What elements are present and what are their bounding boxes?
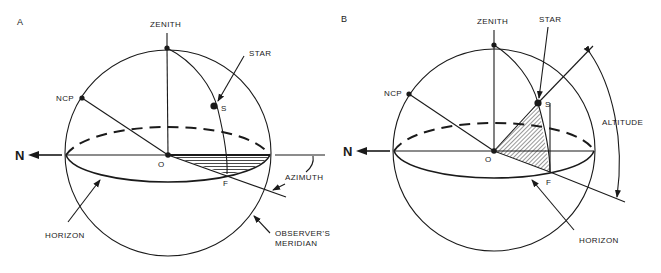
star-label: STAR <box>249 49 271 58</box>
zenith-label: ZENITH <box>477 17 508 26</box>
horizon-label: HORIZON <box>45 231 85 240</box>
azimuth-leader-bottom <box>273 184 285 190</box>
north-arrow-icon <box>28 151 39 159</box>
horizon-leader <box>532 180 574 230</box>
horizon-direction-line <box>550 172 625 202</box>
star-label: STAR <box>539 15 561 24</box>
foot-label: F <box>223 179 228 188</box>
star-leader <box>539 27 548 98</box>
star-leader <box>218 56 244 101</box>
north-label: N <box>343 144 352 159</box>
meridian-label-line2: MERIDIAN <box>275 239 317 248</box>
ncp-label: NCP <box>56 94 74 103</box>
origin-point <box>491 148 497 154</box>
meridian-label-line1: OBSERVER'S <box>275 229 330 238</box>
panel-b: B N ZENITH NCP ALTITUDE <box>341 14 643 251</box>
panel-b-label: B <box>341 14 347 24</box>
north-arrow-icon <box>356 147 367 155</box>
meridian-leader <box>254 216 270 233</box>
foot-label: F <box>546 178 551 187</box>
azimuth-hatch <box>168 155 270 174</box>
star-point <box>534 99 541 106</box>
altitude-label: ALTITUDE <box>602 118 643 127</box>
origin-point <box>165 152 171 158</box>
celestial-sphere-figure: A N ZENITH NCP S STAR <box>0 0 661 273</box>
panel-a-label: A <box>17 17 23 27</box>
north-label: N <box>15 148 24 163</box>
horizon-label: HORIZON <box>579 236 619 245</box>
origin-label: O <box>485 155 492 164</box>
zenith-vertical <box>167 48 168 155</box>
star-direction-line <box>538 46 593 103</box>
ncp-label: NCP <box>384 89 402 98</box>
star-point-label: S <box>221 104 227 113</box>
ncp-point <box>79 95 84 100</box>
ncp-point <box>406 91 411 96</box>
horizon-front <box>394 151 594 178</box>
azimuth-label: AZIMUTH <box>285 173 323 182</box>
azimuth-leader-top <box>306 156 313 172</box>
star-point-label: S <box>545 100 551 109</box>
star-point <box>210 102 217 109</box>
horizon-leader <box>68 180 100 222</box>
panel-a: A N ZENITH NCP S STAR <box>15 17 330 256</box>
zenith-label: ZENITH <box>150 20 181 29</box>
origin-label: O <box>158 160 165 169</box>
